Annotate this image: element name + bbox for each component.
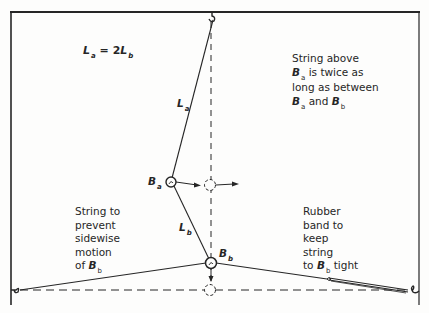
equation-label: La = 2Lb [83,44,133,60]
right-hook-icon [412,286,420,293]
arrow-ghost-right-icon [216,182,239,187]
label-la: La [177,97,189,113]
rubber-band [327,278,408,294]
ball-ba [166,177,176,187]
note-rubber-band: Rubber band to keep string to Bb tight [303,205,358,275]
label-ba: Ba [148,175,162,191]
label-lb: Lb [179,221,192,237]
note-string-above: String above Ba is twice as long as betw… [292,52,379,110]
ghost-ball-ba [205,180,216,191]
arrow-bb-down-icon [209,269,214,282]
ball-bb [206,258,217,269]
left-hook-icon [11,288,19,292]
top-hook-icon [209,12,215,22]
note-prevent-sidewise: String to prevent sidewise motion of Bb [75,205,120,275]
pendulum-diagram [0,0,429,313]
arrow-ba-displacement-icon [176,182,201,188]
ghost-ball-bb [205,285,216,296]
label-bb: Bb [219,247,233,263]
